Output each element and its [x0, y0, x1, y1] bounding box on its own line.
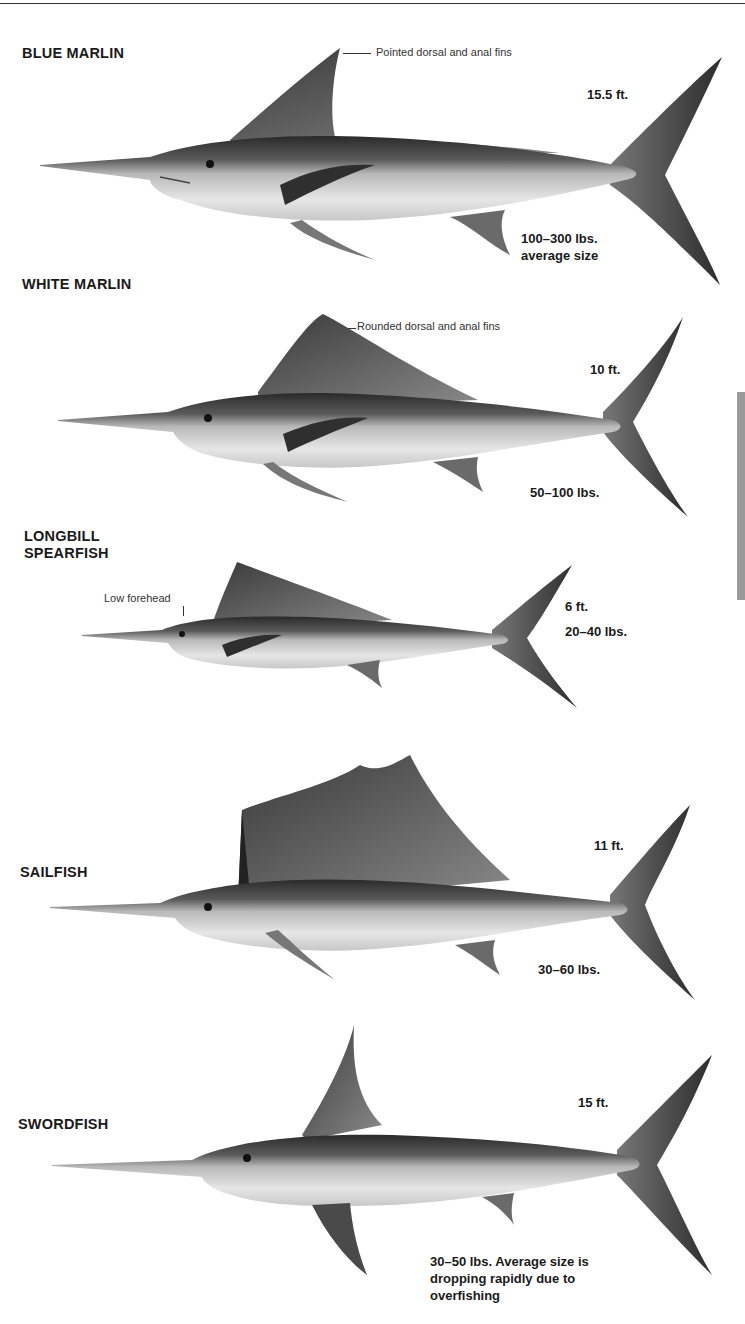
- top-rule: [0, 3, 745, 4]
- sailfish-illustration: [50, 755, 720, 1005]
- fish-name: LONGBILL SPEARFISH: [24, 528, 109, 562]
- side-tab-marker: [737, 392, 745, 600]
- white-marlin-illustration: [58, 312, 718, 522]
- blue-marlin-illustration: [40, 45, 730, 290]
- fish-name: WHITE MARLIN: [22, 276, 132, 293]
- longbill-spearfish-illustration: [82, 560, 582, 710]
- swordfish-illustration: [52, 1025, 727, 1285]
